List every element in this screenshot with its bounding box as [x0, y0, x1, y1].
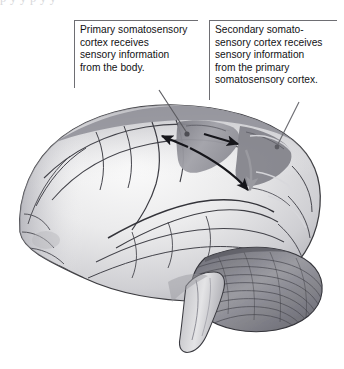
leader-line-primary — [159, 90, 190, 137]
callout-secondary-somatosensory-cortex: Secondary somato- sensory cortex receive… — [209, 20, 337, 100]
callout-secondary-line-5: somatosensory cortex. — [215, 74, 322, 87]
callout-primary-line-4: from the body. — [80, 62, 187, 75]
callout-secondary-line-2: sensory cortex receives — [215, 37, 322, 50]
leader-line-secondary — [275, 102, 299, 149]
callout-secondary-left-rule — [209, 20, 210, 100]
callout-secondary-line-4: from the primary — [215, 62, 322, 75]
callout-secondary-top-rule — [209, 20, 337, 21]
callout-secondary-line-1: Secondary somato- — [215, 24, 322, 37]
callout-primary-left-rule — [74, 20, 75, 88]
callout-primary-line-3: sensory information — [80, 49, 187, 62]
callout-primary-top-rule — [74, 20, 198, 21]
callout-primary-line-2: cortex receives — [80, 37, 187, 50]
callout-primary-line-1: Primary somatosensory — [80, 24, 187, 37]
callout-primary-somatosensory-cortex: Primary somatosensory cortex receives se… — [74, 20, 198, 88]
callout-secondary-line-3: sensory information — [215, 49, 322, 62]
somatosensory-cortex-figure: p y y p y y — [0, 0, 344, 369]
callout-secondary-text: Secondary somato- sensory cortex receive… — [215, 24, 322, 87]
callout-primary-text: Primary somatosensory cortex receives se… — [80, 24, 187, 74]
